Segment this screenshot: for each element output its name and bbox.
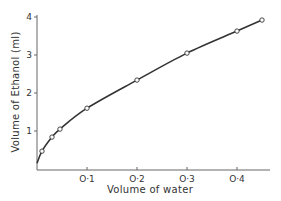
x-axis-label: Volume of water bbox=[107, 184, 194, 195]
y-tick-label: 4 bbox=[26, 12, 32, 22]
data-point bbox=[58, 127, 62, 131]
data-point bbox=[50, 135, 54, 139]
data-point bbox=[260, 18, 264, 22]
y-tick-label: 3 bbox=[26, 50, 32, 60]
y-axis-label: Volume of Ethanol (ml) bbox=[10, 31, 21, 152]
x-tick-label: O·4 bbox=[229, 174, 245, 184]
axes bbox=[37, 15, 270, 170]
data-point bbox=[235, 29, 239, 33]
chart: 1234O·1O·2O·3O·4 Volume of water Volume … bbox=[0, 0, 281, 201]
y-tick-label: 2 bbox=[26, 88, 32, 98]
data-markers bbox=[40, 18, 264, 154]
fit-curve bbox=[37, 20, 262, 163]
x-tick-label: O·1 bbox=[79, 174, 95, 184]
data-point bbox=[85, 106, 89, 110]
data-point bbox=[40, 149, 44, 153]
x-tick-label: O·3 bbox=[179, 174, 195, 184]
y-tick-label: 1 bbox=[26, 126, 32, 136]
x-tick-label: O·2 bbox=[129, 174, 145, 184]
data-point bbox=[185, 51, 189, 55]
ticks: 1234O·1O·2O·3O·4 bbox=[26, 12, 245, 184]
data-point bbox=[135, 78, 139, 82]
